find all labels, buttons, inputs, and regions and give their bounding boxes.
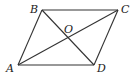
label-o: O bbox=[64, 23, 73, 36]
edge-cd bbox=[94, 10, 118, 65]
label-a: A bbox=[5, 62, 14, 74]
diagonal-bd bbox=[42, 10, 94, 65]
label-c: C bbox=[121, 3, 130, 16]
label-d: D bbox=[96, 62, 106, 74]
edge-ab bbox=[18, 10, 42, 65]
label-b: B bbox=[29, 3, 38, 16]
parallelogram-diagram: B C O A D bbox=[0, 0, 135, 74]
